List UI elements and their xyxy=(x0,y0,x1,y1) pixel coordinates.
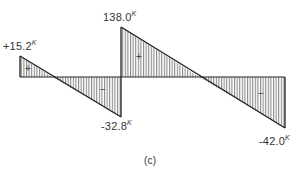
label-start-segment-2: 138.0K xyxy=(103,10,136,23)
figure-caption: (c) xyxy=(144,155,156,166)
minus-sign-1: − xyxy=(100,84,106,95)
label-start-segment-1: +15.2K xyxy=(3,39,37,52)
shear-diagram xyxy=(0,0,302,179)
plus-sign-2: + xyxy=(136,51,142,62)
plus-sign-1: + xyxy=(25,63,31,74)
minus-sign-2: − xyxy=(258,88,264,99)
label-end-segment-1: -32.8K xyxy=(101,119,132,132)
label-end-segment-2: -42.0K xyxy=(259,134,290,147)
